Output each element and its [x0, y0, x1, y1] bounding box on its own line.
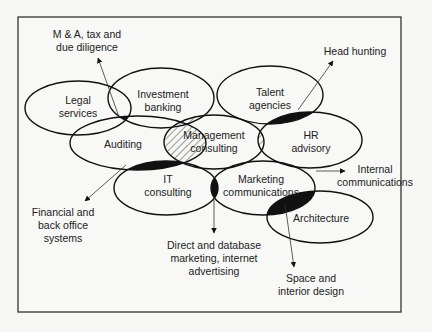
hybrid-space-2: interior design	[278, 285, 344, 297]
hybrid-financial-1: Financial and	[32, 206, 95, 218]
hybrid-financial-2: back office	[38, 219, 88, 231]
hybrid-ma-2: due diligence	[56, 41, 118, 53]
label-hr-2: advisory	[291, 142, 331, 154]
label-investment-1: Investment	[137, 88, 188, 100]
hybrid-direct-3: advertising	[189, 265, 240, 277]
diagram-canvas: Legal services Investment banking Auditi…	[0, 0, 432, 332]
label-management-1: Management	[183, 129, 244, 141]
hybrid-direct-2: marketing, internet	[171, 252, 258, 264]
hybrid-internal-2: communications	[337, 176, 413, 188]
label-legal-2: services	[59, 107, 98, 119]
label-marketing-2: communications	[223, 186, 299, 198]
label-management-2: consulting	[190, 142, 237, 154]
hybrid-direct-1: Direct and database	[167, 239, 261, 251]
hybrid-financial-3: systems	[44, 232, 83, 244]
label-it-1: IT	[163, 173, 173, 185]
hybrid-ma-1: M & A, tax and	[53, 28, 121, 40]
label-talent-2: agencies	[249, 99, 291, 111]
label-it-2: consulting	[144, 186, 191, 198]
label-auditing: Auditing	[104, 138, 142, 150]
hybrid-internal-1: Internal	[357, 163, 392, 175]
label-talent-1: Talent	[256, 86, 284, 98]
label-investment-2: banking	[145, 101, 182, 113]
label-marketing-1: Marketing	[238, 173, 284, 185]
hybrid-space-1: Space and	[286, 272, 336, 284]
label-legal-1: Legal	[65, 94, 91, 106]
label-hr-1: HR	[303, 129, 319, 141]
hybrid-head-hunting: Head hunting	[324, 45, 387, 57]
label-architecture: Architecture	[293, 212, 349, 224]
